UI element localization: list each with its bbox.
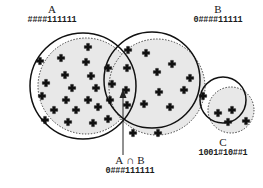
venn-diagram-figure: A ####111111 B 0####11111 C 1001#10##1 A… <box>0 0 263 188</box>
intersection-operator-icon: ∩ <box>126 155 134 167</box>
label-set-a-name: A <box>12 4 92 16</box>
label-set-c: C 1001#10##1 <box>186 137 260 157</box>
label-set-c-code: 1001#10##1 <box>186 149 260 158</box>
intersection-expression: A ∩ B <box>80 155 180 167</box>
label-set-a-code: ####111111 <box>12 16 92 25</box>
label-set-b-code: 0####11111 <box>176 16 260 25</box>
intersection-right-operand: B <box>137 155 145 167</box>
label-intersection-ab: A ∩ B 0###111111 <box>80 155 180 175</box>
label-intersection-ab-code: 0###111111 <box>80 167 180 176</box>
label-set-a: A ####111111 <box>12 4 92 24</box>
label-set-c-name: C <box>186 137 260 149</box>
label-set-b-name: B <box>176 4 260 16</box>
label-set-b: B 0####11111 <box>176 4 260 24</box>
instance-marker <box>41 116 48 123</box>
intersection-left-operand: A <box>115 155 123 167</box>
